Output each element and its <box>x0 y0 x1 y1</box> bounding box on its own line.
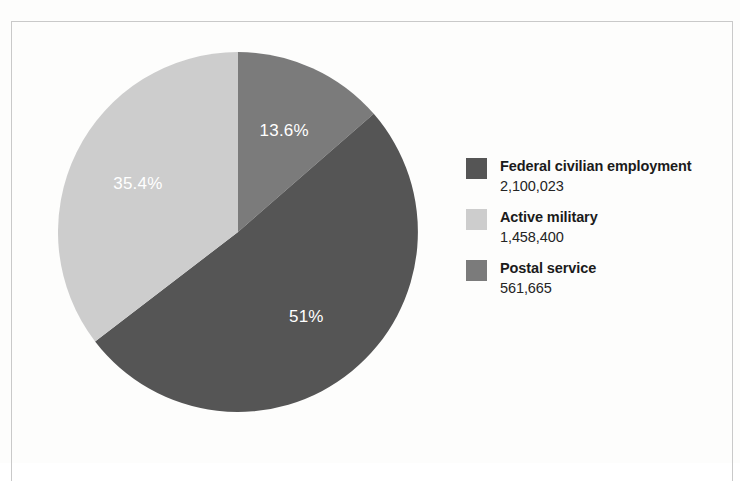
pie-chart: 13.6% 51% 35.4% <box>58 52 418 412</box>
legend-swatch-icon-postal-service <box>466 260 487 281</box>
pie-slice-label-postal-service: 13.6% <box>260 121 309 140</box>
legend-text-postal-service: Postal service 561,665 <box>500 258 596 298</box>
legend-item-postal-service[interactable]: Postal service 561,665 <box>466 258 728 298</box>
pie-slice-group <box>58 52 418 412</box>
legend-value-active-military: 1,458,400 <box>500 229 598 247</box>
chart-legend: Federal civilian employment 2,100,023 Ac… <box>466 156 728 309</box>
pie-slice-label-federal-civilian-employment: 51% <box>289 307 324 326</box>
legend-value-federal-civilian-employment: 2,100,023 <box>500 178 692 196</box>
legend-text-active-military: Active military 1,458,400 <box>500 207 598 247</box>
legend-swatch-icon-active-military <box>466 209 487 230</box>
legend-label-federal-civilian-employment: Federal civilian employment <box>500 158 692 174</box>
legend-text-federal-civilian-employment: Federal civilian employment 2,100,023 <box>500 156 692 196</box>
pie-slice-label-active-military: 35.4% <box>113 174 162 193</box>
legend-value-postal-service: 561,665 <box>500 280 596 298</box>
legend-item-active-military[interactable]: Active military 1,458,400 <box>466 207 728 247</box>
legend-item-federal-civilian-employment[interactable]: Federal civilian employment 2,100,023 <box>466 156 728 196</box>
pie-chart-svg: 13.6% 51% 35.4% <box>58 52 418 412</box>
legend-swatch-icon-federal-civilian-employment <box>466 158 487 179</box>
legend-label-postal-service: Postal service <box>500 260 596 276</box>
legend-label-active-military: Active military <box>500 209 598 225</box>
